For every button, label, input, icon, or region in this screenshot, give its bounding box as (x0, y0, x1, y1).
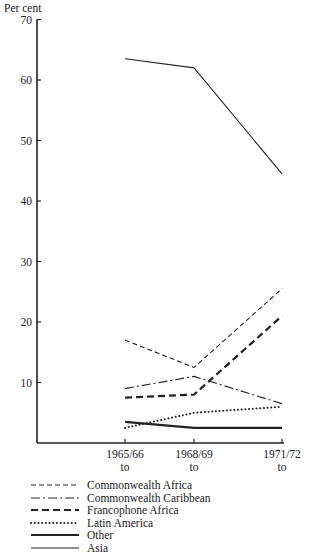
legend-swatch-icon (30, 480, 80, 490)
series-asia (125, 59, 282, 174)
y-tick-label: 60 (21, 74, 33, 86)
legend-item: Commonwealth Caribbean (30, 492, 211, 505)
series-lines (125, 59, 282, 428)
y-tick-label: 30 (21, 256, 33, 268)
legend-item: Asia (30, 542, 211, 555)
y-tick-label: 70 (21, 14, 33, 26)
series-commonwealth-africa (125, 289, 282, 368)
x-tick-label: 1970/71 (175, 474, 213, 475)
axes: 102030405060701965/66to1967/681968/69to1… (21, 14, 302, 476)
legend-item: Other (30, 529, 211, 542)
legend-swatch-icon (30, 493, 80, 503)
legend-swatch-icon (30, 543, 80, 553)
line-chart: 102030405060701965/66to1967/681968/69to1… (0, 0, 311, 475)
x-tick-label: 1973/74 (263, 474, 301, 475)
x-tick-label: to (190, 461, 199, 473)
legend-swatch-icon (30, 505, 80, 515)
legend-label: Commonwealth Africa (87, 479, 192, 491)
legend-item: Latin America (30, 517, 211, 530)
legend-item: Francophone Africa (30, 504, 211, 517)
legend-label: Francophone Africa (87, 504, 179, 516)
legend-label: Commonwealth Caribbean (87, 492, 211, 504)
x-tick-label: 1971/72 (263, 448, 301, 460)
legend-swatch-icon (30, 530, 80, 540)
legend-label: Asia (87, 542, 108, 554)
x-tick-label: 1965/66 (106, 448, 144, 460)
legend-swatch-icon (30, 518, 80, 528)
legend-item: Commonwealth Africa (30, 479, 211, 492)
x-tick-label: to (278, 461, 287, 473)
y-tick-label: 20 (21, 316, 33, 328)
y-tick-label: 50 (21, 135, 33, 147)
x-tick-label: 1967/68 (106, 474, 144, 475)
y-tick-label: 40 (21, 195, 33, 207)
x-tick-label: to (121, 461, 130, 473)
series-other (125, 422, 282, 428)
y-tick-label: 10 (21, 377, 33, 389)
series-francophone-africa (125, 316, 282, 398)
x-tick-label: 1968/69 (175, 448, 213, 460)
legend-label: Latin America (87, 517, 153, 529)
legend: Commonwealth AfricaCommonwealth Caribbea… (30, 479, 211, 554)
series-commonwealth-caribbean (125, 376, 282, 403)
legend-label: Other (87, 529, 113, 541)
